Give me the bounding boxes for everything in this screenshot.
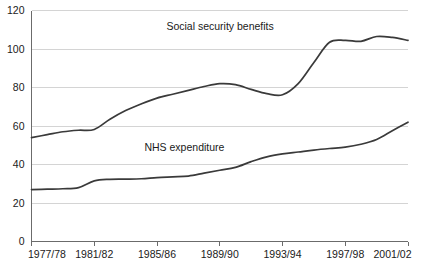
x-tick-label: 1977/78 (28, 248, 66, 260)
x-tick-label: 1993/94 (264, 248, 302, 260)
y-tick-label: 0 (19, 235, 25, 247)
x-tick-label: 1989/90 (201, 248, 239, 260)
series-label-social-security-benefits: Social security benefits (166, 20, 273, 32)
y-tick-label: 120 (7, 4, 25, 16)
x-axis-tick-labels: 1977/781981/821985/861989/901993/941997/… (28, 248, 412, 260)
x-tick-label: 1985/86 (138, 248, 176, 260)
line-chart: 020406080100120 1977/781981/821985/86198… (0, 0, 422, 277)
y-tick-label: 80 (13, 81, 25, 93)
chart-canvas: 020406080100120 1977/781981/821985/86198… (0, 0, 422, 277)
y-tick-label: 60 (13, 120, 25, 132)
y-tick-label: 40 (13, 158, 25, 170)
y-tick-label: 100 (7, 43, 25, 55)
x-tick-label: 1981/82 (75, 248, 113, 260)
x-tick-label: 1997/98 (326, 248, 364, 260)
series-label-nhs-expenditure: NHS expenditure (144, 141, 224, 153)
x-tick-label: 2001/02 (374, 248, 412, 260)
y-tick-label: 20 (13, 197, 25, 209)
